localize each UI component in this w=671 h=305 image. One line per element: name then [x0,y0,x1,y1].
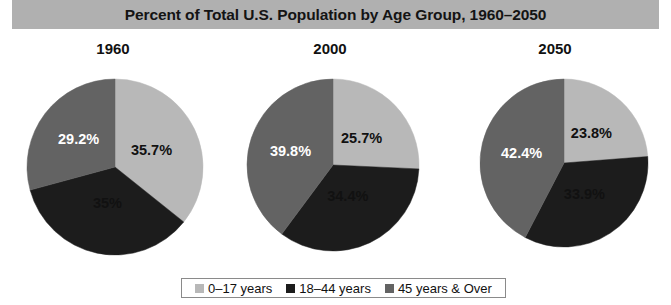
pie-slice-value-label: 35.7% [131,142,172,158]
pie-svg-1960: 35.7%35%29.2% [25,77,205,257]
pie-slice [333,79,419,169]
pie-slice-value-label: 42.4% [501,145,542,161]
pie-svg-2050: 23.8%33.9%42.4% [478,77,650,249]
pie-slice-value-label: 23.8% [571,125,612,141]
legend-item-0-17: 0–17 years [195,281,272,296]
legend-label-18-44: 18–44 years [299,281,371,296]
pie-year-label-1960: 1960 [43,40,183,57]
chart-title-band: Percent of Total U.S. Population by Age … [12,0,659,29]
legend-item-18-44: 18–44 years [286,281,371,296]
legend-label-45-over: 45 years & Over [398,281,492,296]
pie-slice-value-label: 29.2% [58,131,99,147]
chart-legend: 0–17 years 18–44 years 45 years & Over [181,278,506,298]
chart-page: Percent of Total U.S. Population by Age … [0,0,671,305]
legend-item-45-over: 45 years & Over [385,281,492,296]
pie-slice-value-label: 34.4% [327,188,368,204]
legend-label-0-17: 0–17 years [208,281,272,296]
pie-slice-value-label: 33.9% [564,186,605,202]
legend-swatch-18-44-icon [286,284,295,293]
page-title: Percent of Total U.S. Population by Age … [125,6,547,24]
pie-chart-2000: 25.7%34.4%39.8% [245,77,421,253]
pie-svg-2000: 25.7%34.4%39.8% [245,77,421,253]
pie-year-label-2000: 2000 [260,40,400,57]
pie-chart-1960: 35.7%35%29.2% [25,77,205,257]
pie-slice-value-label: 35% [93,195,122,211]
pie-year-label-2050: 2050 [485,40,625,57]
legend-swatch-45-over-icon [385,284,394,293]
pie-chart-2050: 23.8%33.9%42.4% [478,77,650,249]
pie-slice-value-label: 25.7% [341,130,382,146]
pie-slice-value-label: 39.8% [270,143,311,159]
pie-slice [564,79,648,163]
legend-swatch-0-17-icon [195,284,204,293]
